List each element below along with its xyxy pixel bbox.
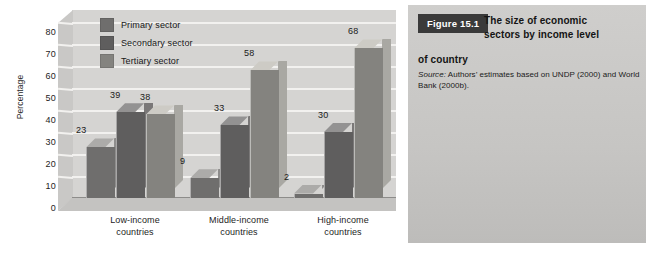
bar-top-face (354, 39, 382, 48)
bar-value-label: 58 (244, 48, 254, 58)
bar-front-face (86, 147, 115, 198)
figure-title-line-3-wrap: of country (418, 53, 640, 67)
bar-3-2[interactable]: 30 (324, 132, 352, 198)
bar-3-1[interactable]: 2 (294, 194, 322, 198)
source-label: Source: (418, 70, 446, 79)
bar-top-face (220, 116, 248, 125)
y-tick-20: 20 (26, 159, 56, 169)
bar-value-label: 33 (214, 103, 224, 113)
x-label-2-line-1: Middle-income (179, 214, 299, 226)
bar-2-3[interactable]: 58 (250, 70, 278, 198)
figure-caption-panel: Figure 15.1 The size of economic sectors… (408, 5, 646, 243)
bar-value-label: 38 (140, 92, 150, 102)
bar-front-face (354, 48, 383, 198)
y-tick-10: 10 (26, 181, 56, 191)
bar-value-label: 9 (180, 156, 185, 166)
legend-item-2[interactable]: Secondary sector (100, 34, 193, 52)
bar-top-face (116, 103, 144, 112)
figure-title-line-2: sectors by income level (484, 29, 599, 40)
bar-value-label: 30 (318, 110, 328, 120)
bar-3-3[interactable]: 68 (354, 48, 382, 198)
legend-swatch-icon-1 (100, 18, 114, 32)
y-tick-0: 0 (26, 203, 56, 213)
legend-item-1[interactable]: Primary sector (100, 16, 193, 34)
bar-group-2: 93358 (190, 23, 280, 198)
bar-front-face (116, 112, 145, 198)
bar-front-face (250, 70, 279, 198)
x-label-1-line-2: countries (75, 226, 195, 238)
x-label-3-line-2: countries (283, 226, 403, 238)
plot-area: Primary sectorSecondary sectorTertiary s… (58, 10, 396, 211)
bar-value-label: 23 (76, 125, 86, 135)
x-label-1-line-1: Low-income (75, 214, 195, 226)
bar-side-face (278, 61, 287, 189)
bar-top-face (294, 185, 322, 194)
figure-title-line-1: The size of economic (484, 15, 587, 26)
figure-title-line-3: of country (418, 54, 468, 65)
figure-title: The size of economic sectors by income l… (484, 14, 640, 41)
bar-1-2[interactable]: 39 (116, 112, 144, 198)
y-tick-80: 80 (26, 27, 56, 37)
bar-group-3: 23068 (294, 23, 384, 198)
chart-legend: Primary sectorSecondary sectorTertiary s… (100, 16, 193, 70)
bar-top-face (190, 169, 218, 178)
legend-label-2: Secondary sector (121, 38, 193, 48)
x-label-2: Middle-incomecountries (179, 214, 299, 238)
y-axis-title: Percentage (15, 57, 25, 137)
bar-front-face (324, 132, 353, 198)
bar-top-face (250, 61, 278, 70)
bar-value-label: 39 (110, 90, 120, 100)
bar-front-face (294, 194, 323, 198)
legend-item-3[interactable]: Tertiary sector (100, 52, 193, 70)
x-label-3-line-1: High-income (283, 214, 403, 226)
bar-value-label: 2 (284, 172, 289, 182)
x-label-1: Low-incomecountries (75, 214, 195, 238)
bar-2-1[interactable]: 9 (190, 178, 218, 198)
y-tick-50: 50 (26, 93, 56, 103)
bar-side-face (174, 105, 183, 189)
x-label-3: High-incomecountries (283, 214, 403, 238)
bar-front-face (146, 114, 175, 198)
bar-value-label: 68 (348, 26, 358, 36)
bar-2-2[interactable]: 33 (220, 125, 248, 198)
y-tick-60: 60 (26, 71, 56, 81)
bar-front-face (190, 178, 219, 198)
bar-top-face (86, 138, 114, 147)
legend-label-3: Tertiary sector (121, 56, 179, 66)
source-text: Authors’ estimates based on UNDP (2000) … (418, 70, 639, 90)
figure-source-note: Source: Authors’ estimates based on UNDP… (418, 69, 640, 91)
bar-1-1[interactable]: 23 (86, 147, 114, 198)
bar-side-face (382, 39, 391, 189)
y-tick-30: 30 (26, 137, 56, 147)
bar-front-face (220, 125, 249, 198)
figure-number-badge: Figure 15.1 (418, 14, 488, 33)
bar-1-3[interactable]: 38 (146, 114, 174, 198)
y-axis-tick-labels: 80706050403020100 (26, 10, 56, 210)
y-tick-40: 40 (26, 115, 56, 125)
bar-top-face (324, 123, 352, 132)
y-tick-70: 70 (26, 49, 56, 59)
legend-swatch-icon-2 (100, 36, 114, 50)
bar-chart: Percentage 80706050403020100 Primary sec… (0, 0, 404, 260)
legend-label-1: Primary sector (121, 20, 180, 30)
x-label-2-line-2: countries (179, 226, 299, 238)
legend-swatch-icon-3 (100, 54, 114, 68)
